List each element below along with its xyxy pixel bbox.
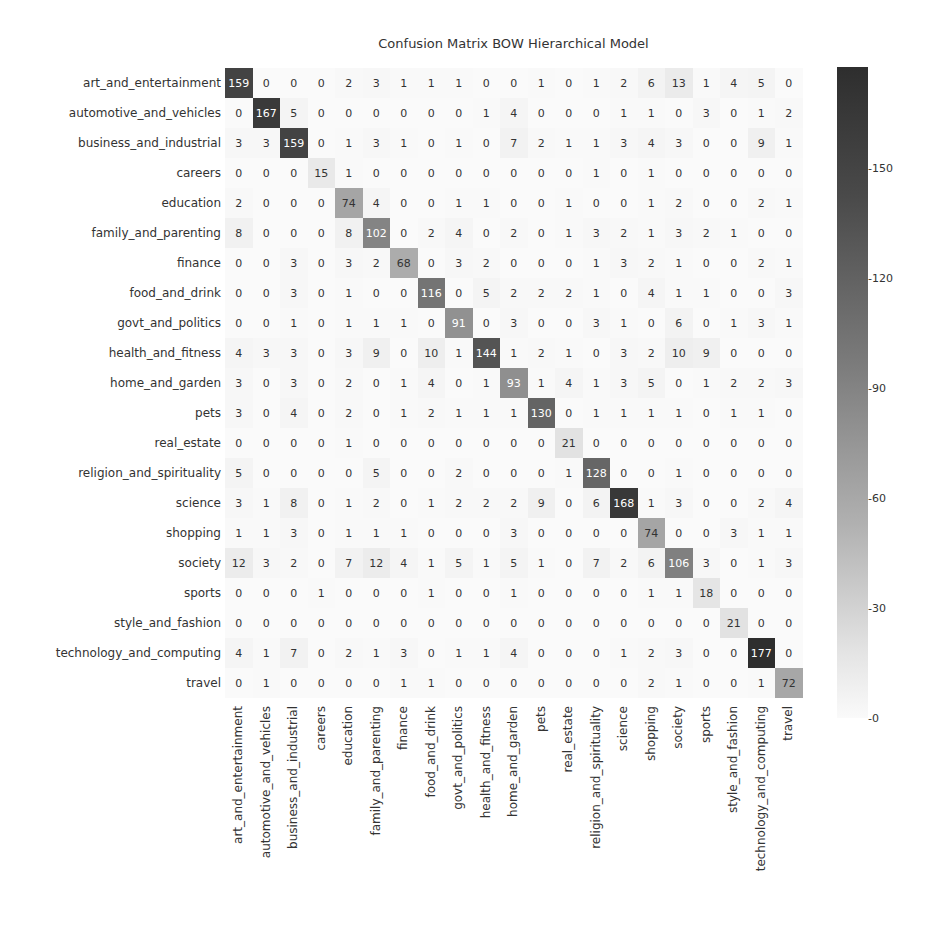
heatmap-cell: 3 (720, 518, 748, 548)
heatmap-cell: 0 (748, 428, 776, 458)
heatmap-cell: 1 (610, 638, 638, 668)
heatmap-cell: 1 (445, 398, 473, 428)
heatmap-cell: 0 (308, 218, 336, 248)
heatmap-cell: 0 (308, 488, 336, 518)
heatmap-cell: 1 (473, 398, 501, 428)
heatmap-cell: 0 (418, 458, 446, 488)
heatmap-cell: 1 (638, 188, 666, 218)
heatmap-cell: 1 (253, 668, 281, 698)
heatmap-cell: 0 (528, 518, 556, 548)
heatmap-cell: 0 (610, 668, 638, 698)
y-tick-label: art_and_entertainment (1, 68, 221, 98)
x-tick-label: real_estate (555, 706, 583, 773)
heatmap-cell: 0 (665, 608, 693, 638)
heatmap-cell: 1 (528, 68, 556, 98)
heatmap-cell: 0 (473, 458, 501, 488)
y-tick-label: real_estate (1, 428, 221, 458)
x-tick-label: home_and_garden (500, 706, 528, 817)
heatmap-cell: 1 (638, 98, 666, 128)
heatmap-cell: 10 (665, 338, 693, 368)
heatmap-cell: 128 (583, 458, 611, 488)
heatmap-cell: 0 (528, 308, 556, 338)
heatmap-cell: 0 (610, 428, 638, 458)
heatmap-cell: 1 (748, 548, 776, 578)
heatmap-cell: 0 (363, 368, 391, 398)
heatmap-cell: 0 (610, 278, 638, 308)
heatmap-cell: 0 (473, 68, 501, 98)
heatmap-cell: 0 (308, 458, 336, 488)
heatmap-cell: 5 (473, 278, 501, 308)
heatmap-cell: 0 (775, 338, 803, 368)
heatmap-cell: 2 (335, 398, 363, 428)
heatmap-cell: 1 (500, 578, 528, 608)
heatmap-cell: 7 (335, 548, 363, 578)
heatmap-cell: 0 (775, 398, 803, 428)
y-tick-label: pets (1, 398, 221, 428)
heatmap-cell: 0 (500, 608, 528, 638)
heatmap-cell: 0 (308, 608, 336, 638)
heatmap-cell: 0 (583, 668, 611, 698)
heatmap-cell: 0 (390, 608, 418, 638)
heatmap-cell: 2 (335, 368, 363, 398)
heatmap-cell: 2 (335, 638, 363, 668)
heatmap-cell: 0 (363, 428, 391, 458)
heatmap-cell: 2 (528, 128, 556, 158)
heatmap-cell: 12 (363, 548, 391, 578)
heatmap-cell: 4 (363, 188, 391, 218)
heatmap-cell: 0 (528, 248, 556, 278)
heatmap-cell: 0 (280, 458, 308, 488)
x-tick-label: finance (390, 706, 418, 750)
y-tick-label: business_and_industrial (1, 128, 221, 158)
heatmap-cell: 74 (638, 518, 666, 548)
y-tick-label: finance (1, 248, 221, 278)
heatmap-cell: 0 (225, 428, 253, 458)
heatmap-cell: 0 (473, 218, 501, 248)
y-tick-label: careers (1, 158, 221, 188)
x-tick-label: food_and_drink (418, 706, 446, 798)
heatmap-cell: 1 (693, 368, 721, 398)
heatmap-cell: 144 (473, 338, 501, 368)
heatmap-cell: 2 (528, 278, 556, 308)
heatmap-cell: 0 (280, 668, 308, 698)
heatmap-cell: 0 (665, 158, 693, 188)
colorbar-tick: -60 (868, 492, 886, 505)
chart-title: Confusion Matrix BOW Hierarchical Model (225, 36, 802, 51)
heatmap-cell: 0 (418, 128, 446, 158)
heatmap-cell: 0 (418, 428, 446, 458)
heatmap-cell: 1 (225, 518, 253, 548)
heatmap-cell: 0 (610, 188, 638, 218)
heatmap-cell: 2 (500, 488, 528, 518)
heatmap-cell: 0 (253, 398, 281, 428)
heatmap-cell: 0 (748, 608, 776, 638)
heatmap-cell: 2 (500, 278, 528, 308)
colorbar-tick: -120 (868, 272, 893, 285)
heatmap-cell: 0 (665, 428, 693, 458)
heatmap-cell: 1 (335, 128, 363, 158)
heatmap-cell: 2 (418, 218, 446, 248)
heatmap-cell: 1 (390, 368, 418, 398)
heatmap-cell: 0 (528, 578, 556, 608)
heatmap-cell: 3 (253, 338, 281, 368)
heatmap-cell: 1 (720, 398, 748, 428)
heatmap-cell: 0 (610, 158, 638, 188)
heatmap-cell: 0 (418, 98, 446, 128)
heatmap-cell: 1 (583, 398, 611, 428)
heatmap-cell: 68 (390, 248, 418, 278)
heatmap-cell: 13 (665, 68, 693, 98)
heatmap-cell: 0 (720, 128, 748, 158)
heatmap-cell: 0 (610, 458, 638, 488)
heatmap-cell: 1 (720, 218, 748, 248)
heatmap-cell: 8 (280, 488, 308, 518)
heatmap-cell: 1 (775, 248, 803, 278)
heatmap-cell: 0 (308, 428, 336, 458)
heatmap-cell: 0 (555, 308, 583, 338)
heatmap-cell: 0 (253, 188, 281, 218)
heatmap-cell: 2 (610, 218, 638, 248)
heatmap-cell: 3 (225, 398, 253, 428)
heatmap-cell: 0 (225, 308, 253, 338)
heatmap-cell: 159 (225, 68, 253, 98)
heatmap-cell: 1 (418, 488, 446, 518)
heatmap-cell: 1 (748, 398, 776, 428)
heatmap-cell: 3 (335, 338, 363, 368)
heatmap-cell: 0 (528, 428, 556, 458)
